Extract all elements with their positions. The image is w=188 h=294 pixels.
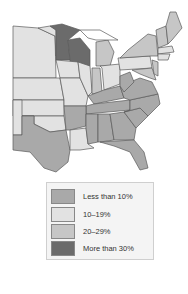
legend-label: 20–29% — [83, 227, 111, 236]
legend-swatch — [51, 241, 75, 256]
legend-swatch — [51, 224, 75, 239]
state-maine — [166, 12, 182, 44]
state-michigan-up — [80, 30, 118, 40]
state-ct-ri — [158, 54, 170, 60]
state-ohio — [100, 64, 120, 90]
choropleth-map — [0, 0, 188, 180]
state-michigan — [96, 40, 114, 66]
legend-label: Less than 10% — [83, 192, 133, 201]
state-colorado-edge — [13, 100, 22, 135]
map-legend: Less than 10% 10–19% 20–29% More than 30… — [46, 182, 154, 260]
state-arkansas — [64, 106, 86, 130]
state-indiana — [92, 68, 102, 94]
state-nebraska — [13, 78, 64, 100]
legend-item-less-than-10: Less than 10% — [51, 188, 133, 204]
state-iowa — [56, 60, 80, 78]
state-mississippi — [86, 114, 98, 144]
state-maryland-delaware — [132, 68, 156, 80]
legend-label: More than 30% — [83, 244, 134, 253]
state-florida — [100, 140, 148, 170]
legend-item-20-29: 20–29% — [51, 223, 111, 239]
legend-item-10-19: 10–19% — [51, 206, 111, 222]
state-new-york — [120, 34, 158, 58]
legend-swatch — [51, 207, 75, 222]
legend-item-more-than-30: More than 30% — [51, 240, 134, 256]
legend-swatch — [51, 189, 75, 204]
legend-label: 10–19% — [83, 210, 111, 219]
